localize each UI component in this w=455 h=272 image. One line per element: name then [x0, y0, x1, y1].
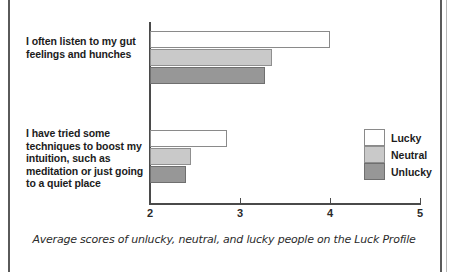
x-axis-tick-label-5: 5	[408, 207, 432, 220]
legend-item-neutral: Neutral	[364, 146, 432, 163]
x-axis-tick-3	[240, 198, 241, 204]
legend-item-unlucky: Unlucky	[364, 163, 432, 180]
x-axis-tick-2	[150, 198, 151, 204]
bar-chart-plot-area: 2 3 4 5 I often listen to my gut feeling…	[0, 0, 455, 272]
x-axis-tick-4	[330, 198, 331, 204]
bar-group1-unlucky	[150, 67, 265, 84]
legend-swatch-lucky-icon	[364, 129, 385, 146]
bar-group2-unlucky	[150, 166, 186, 183]
legend-swatch-unlucky-icon	[364, 163, 385, 180]
legend-item-lucky: Lucky	[364, 129, 432, 146]
bar-group2-lucky	[150, 130, 227, 147]
legend-swatch-neutral-icon	[364, 146, 385, 163]
bar-group1-neutral	[150, 49, 272, 66]
bar-group1-lucky	[150, 31, 330, 48]
category-label-2: I have tried some techniques to boost my…	[26, 127, 146, 190]
legend-label-neutral: Neutral	[391, 149, 427, 161]
legend-label-lucky: Lucky	[391, 132, 421, 144]
x-axis-line	[149, 203, 421, 205]
chart-legend: Lucky Neutral Unlucky	[364, 129, 432, 180]
legend-label-unlucky: Unlucky	[391, 166, 432, 178]
x-axis-tick-label-2: 2	[138, 207, 162, 220]
x-axis-tick-5	[420, 198, 421, 204]
category-label-1: I often listen to my gut feelings and hu…	[26, 35, 146, 60]
figure-caption: Average scores of unlucky, neutral, and …	[14, 233, 434, 246]
bar-group2-neutral	[150, 148, 191, 165]
x-axis-tick-label-4: 4	[318, 207, 342, 220]
x-axis-tick-label-3: 3	[228, 207, 252, 220]
